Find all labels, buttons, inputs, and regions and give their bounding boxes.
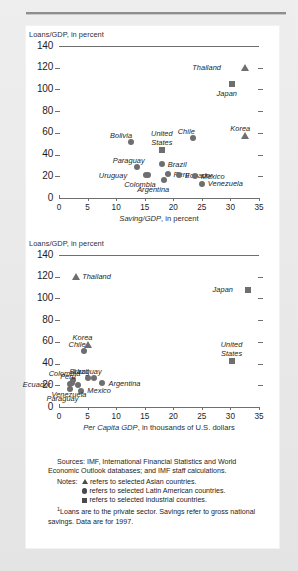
chart-saving-gdp: Loans/GDP, in percent0204060801001201400… — [26, 30, 279, 235]
legend-entry-asian: refers to selected Asian countries. — [48, 478, 260, 487]
y-tick-right-0-100 — [258, 89, 263, 90]
y-tick-right-1-60 — [258, 342, 263, 343]
x-tick-0-30 — [230, 198, 231, 201]
y-tick-right-1-120 — [258, 277, 263, 278]
y-tick-label-0-140: 140 — [27, 40, 53, 51]
y-tick-left-0-80 — [55, 111, 60, 112]
data-label-venezuela-1: Venezuela — [51, 390, 86, 399]
y-tick-left-1-80 — [55, 320, 60, 321]
notes-legend-block: Notes: refers to selected Asian countrie… — [48, 478, 260, 506]
y-tick-label-0-0: 0 — [27, 192, 53, 203]
data-point-japan-1 — [245, 287, 251, 293]
x-axis-line-1 — [59, 407, 259, 408]
x-tick-0-35 — [259, 198, 260, 201]
y-tick-right-0-120 — [258, 68, 263, 69]
x-tick-label-0-15: 15 — [133, 203, 157, 212]
x-tick-label-1-25: 25 — [190, 412, 214, 421]
data-label-argentina-1: Argentina — [108, 379, 140, 388]
x-axis-left-stub-1 — [59, 404, 60, 407]
x-tick-label-1-15: 15 — [133, 412, 157, 421]
legend-text-asian: refers to selected Asian countries. — [90, 478, 196, 486]
sources-label: Sources: — [57, 458, 85, 466]
y-tick-right-1-20 — [258, 385, 263, 386]
data-label-united-states-1: UnitedStates — [214, 341, 250, 358]
legend-entry-industrial: refers to selected industrial countries. — [48, 496, 260, 505]
footnote-line: 1Loans are to the private sector. Saving… — [48, 505, 260, 527]
data-label-uruguay-1: Uruguay — [73, 367, 101, 376]
y-tick-label-0-60: 60 — [27, 126, 53, 137]
x-tick-1-5 — [88, 407, 89, 410]
y-tick-label-1-60: 60 — [27, 335, 53, 346]
x-tick-label-1-30: 30 — [218, 412, 242, 421]
legend-entry-latin: refers to selected Latin American countr… — [48, 487, 260, 496]
data-label-united-states-0: UnitedStates — [144, 130, 180, 147]
y-tick-right-0-40 — [258, 155, 263, 156]
data-label-chile-1: Chile — [69, 340, 86, 349]
legend-text-industrial: refers to selected industrial countries. — [89, 496, 207, 504]
y-tick-right-1-40 — [258, 364, 263, 365]
data-label-thailand-1: Thailand — [82, 272, 111, 281]
x-tick-1-25 — [202, 407, 203, 410]
chart-per-capita-gdp: Loans/GDP, in percent0204060801001201400… — [26, 239, 279, 444]
y-tick-left-1-100 — [55, 298, 60, 299]
y-tick-label-0-80: 80 — [27, 105, 53, 116]
y-tick-label-1-140: 140 — [27, 249, 53, 260]
y-tick-left-0-100 — [55, 89, 60, 90]
figure-panel: Loans/GDP, in percent0204060801001201400… — [26, 26, 279, 548]
data-point-japan-0 — [229, 81, 235, 87]
x-tick-1-15 — [145, 407, 146, 410]
data-label-venezuela-0: Venezuela — [208, 179, 243, 188]
x-tick-1-10 — [116, 407, 117, 410]
x-tick-label-0-10: 10 — [104, 203, 128, 212]
y-tick-left-1-120 — [55, 277, 60, 278]
triangle-icon — [82, 479, 88, 484]
figure-background: Loans/GDP, in percent0204060801001201400… — [0, 0, 298, 571]
x-tick-1-30 — [230, 407, 231, 410]
data-label-brazil-0: Brazil — [168, 160, 187, 169]
y-tick-left-1-60 — [55, 342, 60, 343]
x-tick-label-0-30: 30 — [218, 203, 242, 212]
x-tick-0-25 — [202, 198, 203, 201]
x-tick-label-1-35: 35 — [247, 412, 271, 421]
x-tick-label-1-20: 20 — [161, 412, 185, 421]
x-tick-0-20 — [173, 198, 174, 201]
data-label-thailand-0: Thailand — [192, 63, 221, 72]
y-tick-label-0-40: 40 — [27, 148, 53, 159]
data-label-uruguay-0: Uruguay — [99, 171, 127, 180]
x-axis-line-0 — [59, 198, 259, 199]
data-label-japan-0: Japan — [217, 89, 237, 98]
top-divider-rule — [26, 12, 286, 14]
x-tick-label-0-35: 35 — [247, 203, 271, 212]
y-tick-label-0-20: 20 — [27, 170, 53, 181]
data-label-argentina-0: Argentina — [137, 185, 169, 194]
y-tick-label-0-100: 100 — [27, 83, 53, 94]
x-tick-label-0-20: 20 — [161, 203, 185, 212]
data-point-colombia-0 — [145, 172, 151, 178]
data-point-argentina-1 — [99, 380, 105, 386]
x-tick-1-20 — [173, 407, 174, 410]
data-label-ecuador-1: Ecuador — [23, 380, 51, 389]
x-tick-0-10 — [116, 198, 117, 201]
data-label-japan-1: Japan — [213, 285, 233, 294]
y-tick-left-0-60 — [55, 133, 60, 134]
footnote-text: Loans are to the private sector. Savings… — [48, 509, 255, 526]
y-tick-right-0-80 — [258, 111, 263, 112]
x-tick-label-1-5: 5 — [76, 412, 100, 421]
y-tick-right-1-80 — [258, 320, 263, 321]
x-axis-title-0: Saving/GDP, in percent — [119, 214, 198, 223]
x-tick-1-35 — [259, 407, 260, 410]
data-label-chile-0: Chile — [178, 127, 195, 136]
x-tick-label-0-5: 5 — [76, 203, 100, 212]
data-point-thailand-1 — [72, 273, 80, 280]
y-tick-left-1-40 — [55, 364, 60, 365]
x-tick-0-5 — [88, 198, 89, 201]
y-tick-label-1-40: 40 — [27, 357, 53, 368]
y-tick-right-0-60 — [258, 133, 263, 134]
data-label-mexico-1: Mexico — [87, 386, 111, 395]
x-axis-title-1: Per Capita GDP, in thousands of U.S. dol… — [83, 423, 235, 432]
data-point-venezuela-0 — [199, 181, 205, 187]
notes-block: Sources: IMF, International Financial St… — [48, 458, 260, 527]
y-tick-label-1-120: 120 — [27, 270, 53, 281]
y-tick-label-0-120: 120 — [27, 61, 53, 72]
x-axis-left-stub-0 — [59, 195, 60, 198]
